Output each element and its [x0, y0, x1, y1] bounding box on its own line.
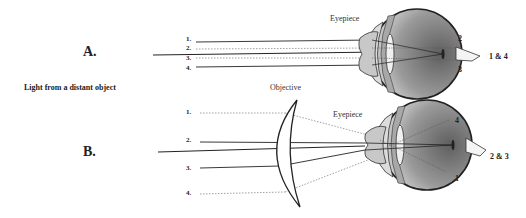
optics-diagram	[0, 0, 526, 218]
panel-b-rays	[158, 113, 368, 194]
panel-a-ray-1-label: 1.	[186, 35, 191, 43]
panel-b-ray-2-label: 2.	[186, 136, 191, 144]
caption-distant-object: Light from a distant object	[24, 83, 116, 92]
panel-a-retina-bottom-label: 3	[458, 65, 462, 74]
panel-b-ray-1-label: 1.	[186, 108, 191, 116]
panel-a-ray-3-label: 3.	[186, 54, 191, 62]
objective-lens	[277, 100, 300, 207]
objective-label: Objective	[270, 83, 301, 92]
panel-b-ray-3-label: 3.	[186, 164, 191, 172]
panel-a-nerve-label: 1 & 4	[489, 52, 508, 61]
panel-b-retina-top-label: 4	[455, 116, 459, 125]
panel-a-retina-top-label: 2	[458, 34, 462, 43]
panel-b-ray-4-label: 4.	[186, 189, 191, 197]
panel-b-eye	[365, 100, 486, 190]
panel-b-nerve-label: 2 & 3	[490, 152, 509, 161]
panel-a-letter: A.	[83, 44, 97, 60]
panel-a-eye	[359, 9, 480, 99]
panel-a-ray-2-label: 2.	[186, 44, 191, 52]
panel-b-retina-bottom-label: 1	[455, 174, 459, 183]
panel-a-ray-4-label: 4.	[186, 64, 191, 72]
panel-b-letter: B.	[83, 144, 96, 160]
panel-a-eyepiece-label: Eyepiece	[330, 14, 359, 23]
panel-b-eyepiece-label: Eyepiece	[333, 110, 362, 119]
